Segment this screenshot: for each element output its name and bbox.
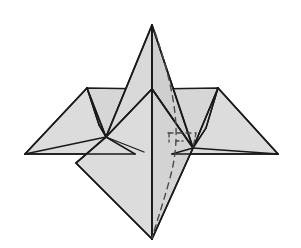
origami-figure-svg: Folded paper model [0, 0, 301, 248]
origami-figure-container: Folded paper model [0, 0, 301, 248]
